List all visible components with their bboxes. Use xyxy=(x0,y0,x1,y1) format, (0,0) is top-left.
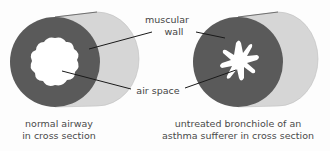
caption-asthma-1: untreated bronchiole of an xyxy=(175,118,302,129)
caption-normal-1: normal airway xyxy=(25,118,93,129)
caption-normal-2: in cross section xyxy=(22,130,96,141)
label-air-space: air space xyxy=(136,85,179,96)
asthma-bronchiole-cylinder xyxy=(193,12,318,107)
airway-diagram: muscular wall air space normal airway in… xyxy=(0,0,330,151)
label-muscular-wall-1: muscular xyxy=(145,14,189,25)
normal-airway-cylinder xyxy=(10,12,139,107)
label-muscular-wall-2: wall xyxy=(165,26,184,37)
caption-asthma-2: asthma sufferer in cross section xyxy=(162,130,314,141)
